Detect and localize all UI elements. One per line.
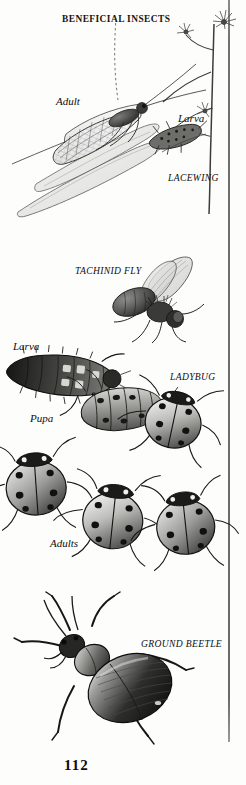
- label-lacewing-larva: Larva: [178, 112, 204, 124]
- label-ladybug-adults: Adults: [50, 537, 78, 549]
- ladybug-plate: [0, 330, 246, 580]
- label-tachinid-name: TACHINID FLY: [75, 265, 141, 276]
- label-lacewing-adult: Adult: [56, 95, 80, 107]
- lacewing-plate: [0, 16, 246, 236]
- label-ladybug-larva: Larva: [13, 340, 39, 352]
- label-ladybug-pupa: Pupa: [30, 412, 53, 424]
- ground-beetle-figure: [14, 592, 194, 744]
- ground-beetle-plate: [0, 590, 246, 755]
- ladybug-adult-figure: [0, 436, 94, 534]
- label-lacewing-name: LACEWING: [168, 172, 219, 183]
- label-ground-beetle-name: GROUND BEETLE: [141, 638, 222, 649]
- ladybug-adult-figure: [50, 465, 173, 568]
- label-ladybug-name: LADYBUG: [170, 371, 216, 382]
- page-number: 112: [64, 757, 89, 774]
- book-page: BENEFICIAL INSECTS: [0, 0, 246, 785]
